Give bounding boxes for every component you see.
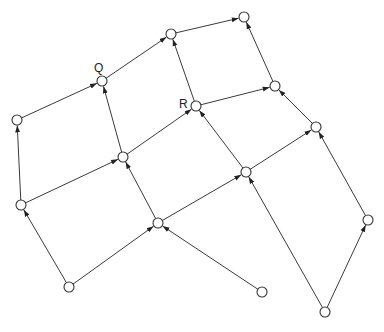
edge-n1-to-n2: [24, 210, 67, 283]
edge-n1-to-n6: [73, 226, 153, 284]
node-n1: [64, 282, 74, 292]
edge-n12-to-R: [199, 110, 243, 168]
node-n8: [166, 29, 176, 39]
node-q: [97, 76, 107, 86]
node-n2: [16, 200, 26, 210]
node-n10: [239, 12, 249, 22]
edge-n12-to-n13: [250, 130, 311, 169]
edge-n11-to-n10: [246, 22, 273, 81]
node-n3: [12, 115, 22, 125]
edges-layer: [17, 18, 365, 307]
node-n5: [118, 152, 128, 162]
edge-Q-to-n8: [106, 37, 166, 78]
edge-n3-to-Q: [22, 83, 97, 118]
edge-R-to-n11: [201, 87, 270, 104]
edge-n2-to-n5: [26, 159, 118, 203]
edge-n8-to-n10: [176, 18, 239, 33]
node-label-q: Q: [94, 62, 103, 74]
node-n6: [153, 218, 163, 228]
edge-n6-to-n5: [126, 162, 156, 219]
edge-n5-to-R: [127, 109, 191, 154]
edge-n14-to-n13: [319, 132, 366, 216]
node-n11: [270, 81, 280, 91]
edge-n2-to-n3: [17, 125, 21, 200]
node-n15: [320, 307, 330, 317]
edge-n13-to-n11: [279, 90, 313, 124]
graph-canvas: [0, 0, 384, 332]
edge-n5-to-Q: [103, 86, 121, 152]
node-n7: [257, 287, 267, 297]
node-n14: [363, 215, 373, 225]
directed-graph-diagram: Q R: [0, 0, 384, 332]
nodes-layer: [12, 12, 373, 317]
node-n12: [241, 167, 251, 177]
edge-n7-to-n6: [163, 226, 258, 289]
node-label-r: R: [179, 98, 188, 110]
node-r: [191, 101, 201, 111]
edge-n6-to-n12: [162, 175, 241, 221]
edge-R-to-n8: [173, 39, 195, 101]
node-n13: [311, 122, 321, 132]
edge-n15-to-n14: [327, 225, 366, 307]
